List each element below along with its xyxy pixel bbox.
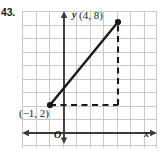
- x-axis-label: x: [144, 128, 149, 139]
- figure-graphics: [22, 11, 157, 148]
- point-a-label: (−1, 2): [19, 107, 49, 119]
- point-b-label: (4, 8): [79, 9, 103, 21]
- y-axis-label: y: [72, 9, 76, 20]
- line-segment: [50, 22, 118, 105]
- x-axis: [22, 130, 157, 136]
- problem-number: 43.: [1, 6, 15, 18]
- y-axis: [61, 11, 67, 144]
- point-b-marker: [115, 19, 121, 25]
- coordinate-plane: [22, 11, 157, 148]
- figure-container: 43.: [0, 0, 162, 155]
- origin-label: O: [54, 129, 61, 140]
